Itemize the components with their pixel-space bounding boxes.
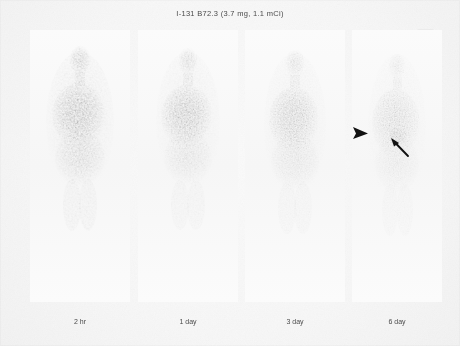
scintigraphy-figure: I-131 B72.3 (3.7 mg, 1.1 mCi) xyxy=(0,0,460,346)
film-sheet-edge xyxy=(0,0,460,346)
